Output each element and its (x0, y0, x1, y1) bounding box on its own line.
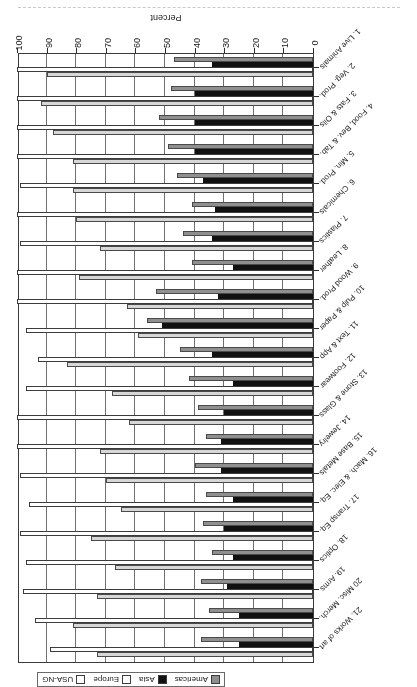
bar-usa-ng (73, 623, 313, 628)
bar-usa-ng (106, 478, 313, 483)
bar-usa-ng (47, 72, 313, 77)
bar-usa-ng (100, 449, 313, 454)
value-axis-label: 20 (251, 28, 261, 58)
category-axis-tick (314, 531, 319, 532)
bar-group (19, 459, 313, 488)
legend-label: USA-NG (42, 675, 73, 684)
bar-usa-ng (121, 507, 313, 512)
category-axis-tick (314, 67, 319, 68)
bar-group (19, 546, 313, 575)
bar-usa-ng (73, 188, 313, 193)
category-axis-tick (314, 618, 319, 619)
value-axis-label: 30 (221, 28, 231, 58)
bar-group (19, 110, 313, 139)
category-axis-label: 4. Food, Bev. & Tab. (318, 101, 375, 158)
category-axis-tick (314, 328, 319, 329)
bar-usa-ng (97, 594, 313, 599)
bar-usa-ng (73, 159, 313, 164)
bar-usa-ng (53, 130, 313, 135)
chart-legend: AmericasAsiaEuropeUSA-NG (37, 672, 225, 687)
category-axis: 1. Live Animals2. Veg. Prod.3. Fats & Oi… (314, 53, 357, 663)
legend-item: USA-NG (42, 675, 85, 684)
value-axis-label: 70 (103, 28, 113, 58)
category-axis-tick (314, 647, 319, 648)
bar-usa-ng (138, 333, 313, 338)
bar-group (19, 575, 313, 604)
category-axis-tick (314, 154, 319, 155)
category-axis-tick (314, 212, 319, 213)
category-axis-label: 7. Plastics (318, 213, 350, 245)
category-axis-tick (314, 125, 319, 126)
bar-group (19, 372, 313, 401)
bar-usa-ng (76, 217, 313, 222)
category-axis-label: 18. Optics (318, 533, 350, 565)
category-axis-tick (314, 299, 319, 300)
bar-usa-ng (127, 304, 313, 309)
plot-area (18, 53, 314, 663)
category-axis-tick (314, 589, 319, 590)
category-axis-tick (314, 357, 319, 358)
bar-group (19, 313, 313, 342)
bar-usa-ng (115, 565, 313, 570)
bar-usa-ng (67, 362, 313, 367)
bar-group (19, 401, 313, 430)
value-axis-label: 60 (132, 28, 142, 58)
bar-group (19, 430, 313, 459)
bar-usa-ng (97, 652, 313, 657)
bar-usa-ng (112, 391, 313, 396)
category-axis-tick (314, 560, 319, 561)
category-axis-tick (314, 386, 319, 387)
bar-group (19, 604, 313, 633)
value-axis-label: 90 (44, 28, 54, 58)
bar-group (19, 488, 313, 517)
value-axis-label: 80 (73, 28, 83, 58)
legend-item: Europe (93, 675, 131, 684)
bar-group (19, 255, 313, 284)
legend-label: Americas (175, 675, 208, 684)
category-axis-tick (314, 502, 319, 503)
value-axis-label: 10 (280, 28, 290, 58)
category-axis-tick (314, 415, 319, 416)
legend-label: Europe (93, 675, 119, 684)
bar-usa-ng (41, 101, 313, 106)
bar-group (19, 81, 313, 110)
value-axis-label: 100 (14, 28, 24, 58)
category-axis-label: 1. Live Animals (318, 26, 362, 70)
bar-group (19, 342, 313, 371)
value-axis-label: 40 (192, 28, 202, 58)
bar-group (19, 633, 313, 662)
category-axis-tick (314, 96, 319, 97)
bar-usa-ng (91, 536, 313, 541)
legend-item: Asia (139, 675, 167, 684)
category-axis-tick (314, 270, 319, 271)
bar-group (19, 197, 313, 226)
bar-group (19, 284, 313, 313)
legend-item: Americas (175, 675, 220, 684)
category-axis-tick (314, 444, 319, 445)
legend-swatch-icon (211, 675, 220, 684)
bar-group (19, 226, 313, 255)
value-axis-title: Percent (18, 13, 314, 23)
category-axis-tick (314, 241, 319, 242)
legend-swatch-icon (122, 675, 131, 684)
bar-usa-ng (129, 420, 313, 425)
bar-group (19, 517, 313, 546)
category-axis-tick (314, 183, 319, 184)
category-axis-tick (314, 473, 319, 474)
legend-swatch-icon (158, 675, 167, 684)
value-axis-label: 50 (162, 28, 172, 58)
bar-group (19, 168, 313, 197)
bar-group (19, 139, 313, 168)
legend-swatch-icon (76, 675, 85, 684)
bar-usa-ng (100, 246, 313, 251)
bar-usa-ng (79, 275, 313, 280)
legend-label: Asia (139, 675, 155, 684)
